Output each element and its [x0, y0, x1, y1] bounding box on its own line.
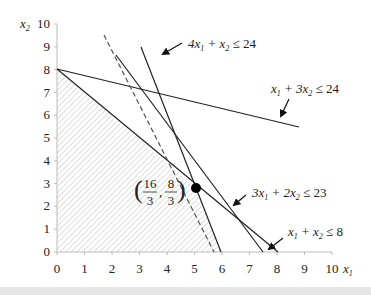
- svg-text:6: 6: [219, 261, 226, 276]
- x-tick-labels: 0 1 2 3 4 5 6 7 8 9 10: [54, 261, 339, 276]
- svg-text:7: 7: [44, 85, 51, 100]
- svg-text:0: 0: [44, 244, 51, 259]
- svg-text:4: 4: [44, 153, 51, 168]
- svg-text:9: 9: [44, 39, 51, 54]
- svg-text:3x1 + 2x2 ≤ 23: 3x1 + 2x2 ≤ 23: [251, 185, 326, 202]
- y-axis-label: x2: [19, 16, 30, 33]
- optimal-point: [191, 183, 201, 193]
- svg-text:3: 3: [168, 193, 175, 208]
- svg-text:): ): [177, 175, 186, 204]
- svg-text:2: 2: [109, 261, 116, 276]
- bottom-bar: [0, 287, 371, 295]
- svg-text:2: 2: [44, 198, 51, 213]
- svg-text:3: 3: [136, 261, 143, 276]
- svg-text:6: 6: [44, 107, 51, 122]
- svg-text:1: 1: [44, 221, 51, 236]
- y-tick-labels: 0 1 2 3 4 5 6 7 8 9 10: [37, 16, 51, 259]
- svg-text:x1 + x2 ≤ 8: x1 + x2 ≤ 8: [287, 224, 343, 241]
- feasible-region: [57, 69, 221, 252]
- svg-text:4x1 + x2 ≤ 24: 4x1 + x2 ≤ 24: [188, 36, 256, 53]
- svg-text:4: 4: [164, 261, 171, 276]
- svg-text:3: 3: [147, 193, 154, 208]
- svg-text:8: 8: [274, 261, 281, 276]
- annotation-x1-3x2-24: x1 + 3x2 ≤ 24: [270, 81, 339, 116]
- annotation-3x1-2x2-23: 3x1 + 2x2 ≤ 23: [234, 185, 326, 205]
- svg-text:0: 0: [54, 261, 61, 276]
- svg-text:3: 3: [44, 176, 51, 191]
- svg-text:10: 10: [37, 16, 50, 31]
- svg-text:9: 9: [301, 261, 308, 276]
- svg-text:8: 8: [168, 176, 175, 191]
- svg-text:5: 5: [191, 261, 198, 276]
- annotation-4x1-x2-24: 4x1 + x2 ≤ 24: [163, 36, 256, 54]
- svg-text:7: 7: [246, 261, 253, 276]
- annotation-x1-x2-8: x1 + x2 ≤ 8: [269, 224, 343, 249]
- lp-feasible-region-chart: 0 1 2 3 4 5 6 7 8 9 10 0 1 2 3 4 5 6 7 8…: [0, 0, 371, 295]
- svg-text:8: 8: [44, 62, 51, 77]
- svg-text:10: 10: [326, 261, 339, 276]
- svg-text:x1 + 3x2 ≤ 24: x1 + 3x2 ≤ 24: [270, 81, 339, 98]
- svg-text:,: ,: [159, 184, 162, 199]
- svg-text:5: 5: [44, 130, 51, 145]
- svg-text:1: 1: [81, 261, 88, 276]
- svg-text:(: (: [134, 175, 143, 204]
- x-axis-label: x1: [342, 261, 353, 278]
- svg-text:16: 16: [144, 176, 158, 191]
